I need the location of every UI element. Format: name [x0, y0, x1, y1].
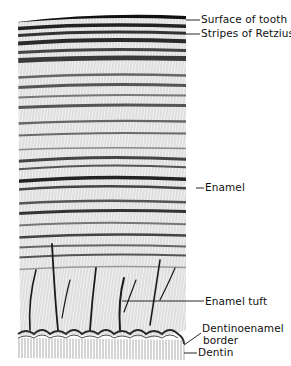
label-dentinoenamel: Dentinoenamel	[202, 323, 284, 334]
label-enamel: Enamel	[205, 182, 245, 193]
label-enamel-tuft: Enamel tuft	[205, 296, 267, 307]
dentin-region	[18, 338, 186, 360]
label-stripes-of-retzius: Stripes of Retzius	[201, 28, 291, 39]
label-border: border	[203, 335, 238, 346]
enamel-illustration-figure: Surface of tooth Stripes of Retzius Enam…	[0, 0, 291, 366]
label-surface-of-tooth: Surface of tooth	[201, 14, 287, 25]
enamel-drawing	[0, 0, 291, 366]
label-dentin: Dentin	[198, 347, 234, 358]
enamel-region	[0, 0, 291, 366]
